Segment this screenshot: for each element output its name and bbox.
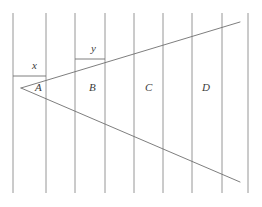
measure-segments-group xyxy=(13,59,105,76)
region-label-c: C xyxy=(145,82,152,93)
figure-canvas xyxy=(0,0,262,207)
region-label-b: B xyxy=(89,82,96,93)
lower-ray xyxy=(21,88,240,182)
region-label-a: A xyxy=(35,82,42,93)
upper-ray xyxy=(21,22,240,88)
geometry-figure: x y A B C D xyxy=(0,0,262,207)
measure-label-y: y xyxy=(91,43,96,54)
region-label-d: D xyxy=(202,82,210,93)
measure-label-x: x xyxy=(32,60,37,71)
vertical-lines-group xyxy=(13,13,248,193)
angle-rays-group xyxy=(21,22,240,182)
